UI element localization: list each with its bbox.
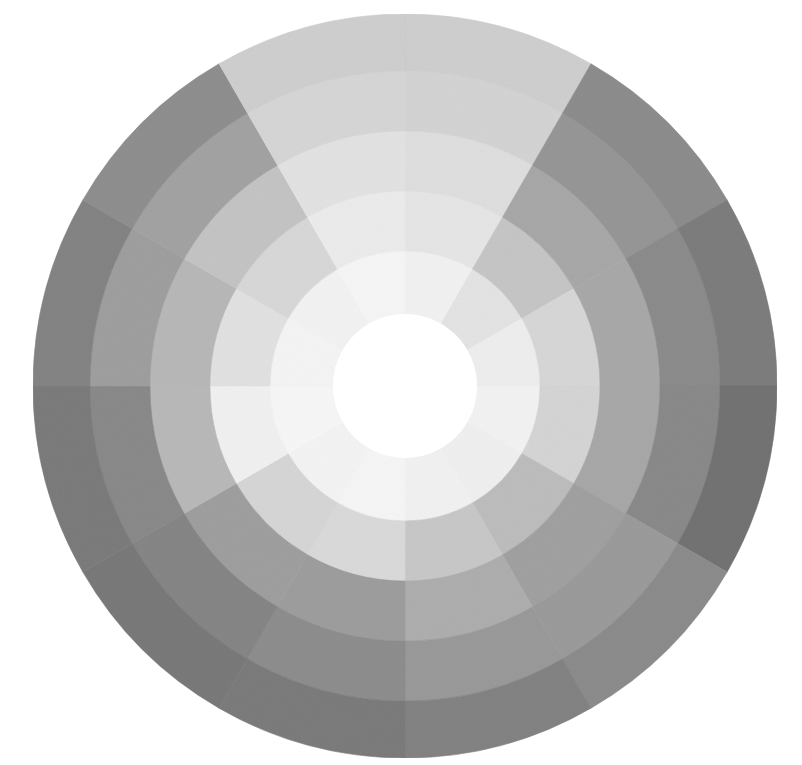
color-wheel-painting bbox=[0, 0, 802, 765]
center-disc bbox=[333, 314, 477, 458]
color-wheel-svg bbox=[0, 0, 802, 765]
